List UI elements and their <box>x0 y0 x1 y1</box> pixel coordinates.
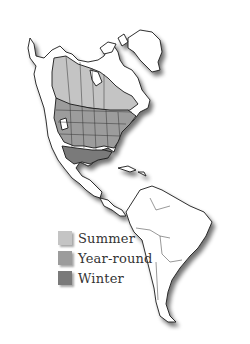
winter-swatch <box>58 271 72 285</box>
legend-item-summer: Summer <box>58 228 153 248</box>
range-map <box>0 0 250 344</box>
greenland <box>128 30 162 72</box>
summer-swatch <box>58 231 72 245</box>
legend-label: Year-round <box>78 251 153 266</box>
legend-item-winter: Winter <box>58 268 153 288</box>
central-america <box>100 198 126 216</box>
legend: Summer Year-round Winter <box>58 228 153 288</box>
year-round-swatch <box>58 251 72 265</box>
legend-label: Winter <box>78 271 124 286</box>
legend-item-year-round: Year-round <box>58 248 153 268</box>
legend-label: Summer <box>78 231 135 246</box>
